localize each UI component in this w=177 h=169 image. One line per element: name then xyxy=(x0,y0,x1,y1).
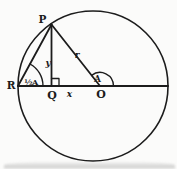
label-point-R: R xyxy=(7,79,16,91)
right-angle-mark xyxy=(52,79,60,87)
geometry-figure: P R Q O y x r A ½A xyxy=(0,0,177,169)
label-length-r: r xyxy=(75,50,81,60)
label-length-x: x xyxy=(66,89,73,99)
scan-shadow-artifact xyxy=(4,161,175,169)
label-point-Q: Q xyxy=(47,89,57,102)
label-point-O: O xyxy=(96,88,106,101)
label-length-y: y xyxy=(44,58,51,68)
label-angle-A: A xyxy=(93,74,102,84)
circle-diagram-svg: P R Q O y x r A ½A xyxy=(0,0,177,169)
label-point-P: P xyxy=(39,13,47,25)
label-angle-half-A: ½A xyxy=(24,77,39,87)
